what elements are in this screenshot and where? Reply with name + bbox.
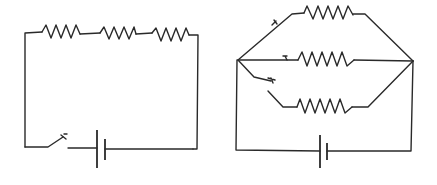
parallel-top-branch-wire-left [238,13,304,60]
parallel-bottom-resistor [297,99,352,113]
parallel-top-switch-closed [272,20,277,25]
parallel-bottom-branch-wire-right [352,61,413,107]
circuit-diagrams-figure: Series circuit Parallel circuit [0,0,437,185]
parallel-top-resistor [304,6,353,19]
parallel-middle-resistor [298,52,354,66]
parallel-top-branch-wire-right [353,14,413,61]
parallel-bottom-switch-open [238,60,271,81]
parallel-circuit [0,0,437,185]
parallel-bottom-branch-wire-left [268,91,297,107]
parallel-middle-branch-wire-right [354,60,413,61]
